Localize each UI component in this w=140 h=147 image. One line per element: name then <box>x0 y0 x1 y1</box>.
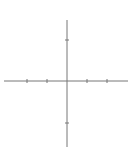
elliptic-curve-diagram <box>0 0 140 147</box>
